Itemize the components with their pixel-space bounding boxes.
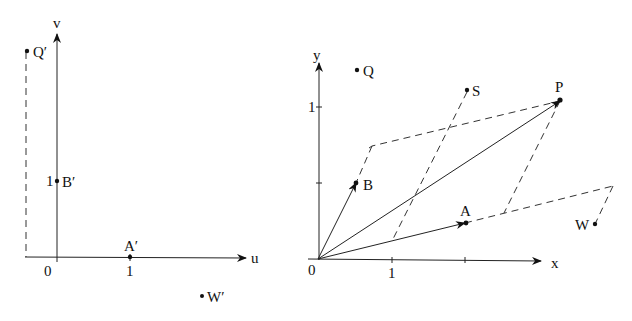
- point-q-label: Q: [363, 63, 374, 79]
- point-a-label: A: [460, 203, 471, 219]
- x-axis-label: x: [551, 255, 559, 271]
- point-s-label: S: [472, 83, 480, 99]
- dashed-a-extension: [465, 186, 613, 223]
- point-w: [593, 222, 597, 226]
- u-axis-label: u: [251, 250, 259, 266]
- point-b-prime: [55, 179, 59, 183]
- v-tick-1-label: 1: [46, 173, 54, 189]
- point-b-label: B: [363, 177, 373, 193]
- point-q: [355, 68, 359, 72]
- x-axis: [308, 259, 541, 261]
- point-w-prime: [200, 294, 204, 298]
- point-w-prime-label: W′: [207, 289, 224, 305]
- point-a: [464, 221, 469, 226]
- vector-a: [318, 223, 465, 259]
- right-panel: y x 0 1 1 Q S P B A W: [308, 47, 613, 281]
- u-tick-1-label: 1: [126, 263, 134, 279]
- x-tick-1-label: 1: [388, 265, 396, 281]
- u-axis: [25, 257, 246, 258]
- v-axis-label: v: [53, 15, 61, 31]
- vector-p: [318, 101, 560, 259]
- vector-b: [318, 183, 356, 259]
- point-b: [354, 181, 359, 186]
- point-a-prime: [128, 255, 132, 259]
- point-p-label: P: [555, 79, 563, 95]
- dashed-p-down: [504, 101, 560, 213]
- left-origin-label: 0: [44, 263, 52, 279]
- right-origin-label: 0: [308, 262, 316, 278]
- y-axis-label: y: [313, 47, 321, 63]
- point-w-label: W: [575, 217, 590, 233]
- dashed-b-to-p: [369, 101, 560, 148]
- point-q-prime-label: Q′: [33, 44, 47, 60]
- coordinate-diagram: v u 0 1 1 Q′ B′ A′ W′ y x 0 1 1: [0, 0, 632, 321]
- dashed-s-line: [392, 92, 467, 241]
- dashed-to-w: [596, 186, 613, 222]
- point-b-prime-label: B′: [62, 174, 75, 190]
- left-panel: v u 0 1 1 Q′ B′ A′ W′: [25, 15, 259, 305]
- point-a-prime-label: A′: [124, 238, 138, 254]
- y-tick-1-label: 1: [308, 99, 316, 115]
- point-q-prime: [25, 49, 29, 53]
- point-p: [557, 97, 562, 102]
- point-s: [465, 88, 469, 92]
